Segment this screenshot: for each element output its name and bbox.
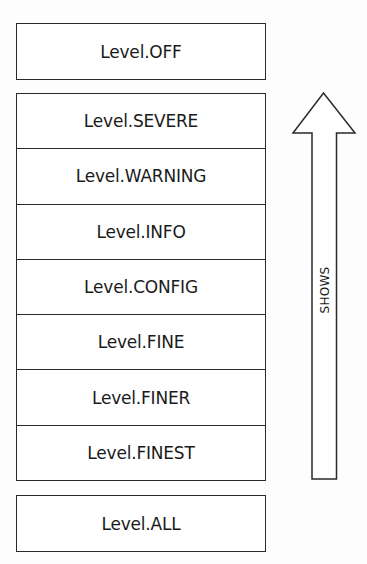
- shows-label: SHOWS: [312, 260, 337, 320]
- shows-text: SHOWS: [318, 266, 332, 313]
